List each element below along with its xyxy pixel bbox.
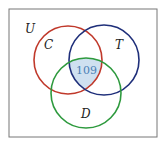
venn-diagram: U C T D 109 — [0, 0, 167, 144]
set-d-label: D — [80, 107, 91, 121]
set-t-label: T — [115, 38, 124, 52]
intersection-value: 109 — [76, 64, 97, 77]
universe-label: U — [25, 22, 36, 36]
set-c-label: C — [44, 38, 53, 52]
